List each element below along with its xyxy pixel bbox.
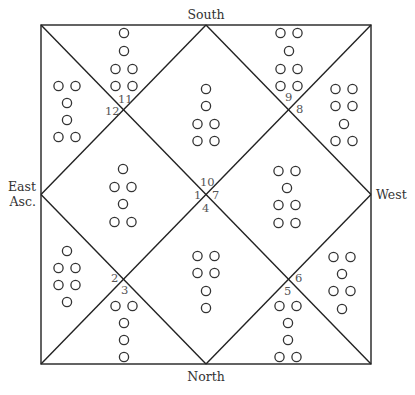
house-3-markers xyxy=(111,301,137,361)
circle-marker-icon xyxy=(291,166,300,175)
astrology-chart: South North West East Asc. 1234567891011… xyxy=(0,0,415,395)
circle-marker-icon xyxy=(201,303,210,312)
circle-marker-icon xyxy=(62,297,71,306)
circle-marker-icon xyxy=(128,64,137,73)
circle-marker-icon xyxy=(193,251,202,260)
circle-marker-icon xyxy=(119,352,128,361)
house-5-markers xyxy=(275,301,301,361)
circle-marker-icon xyxy=(331,84,340,93)
circle-marker-icon xyxy=(119,46,128,55)
circle-marker-icon xyxy=(119,318,128,327)
circle-marker-icon xyxy=(127,217,136,226)
circle-marker-icon xyxy=(274,218,283,227)
ascendant-label: Asc. xyxy=(9,194,36,209)
house-number-8: 8 xyxy=(296,102,303,116)
circle-marker-icon xyxy=(283,318,292,327)
circle-marker-icon xyxy=(193,268,202,277)
circle-marker-icon xyxy=(276,81,285,90)
circle-marker-icon xyxy=(291,218,300,227)
house-2-markers xyxy=(54,246,80,306)
circle-marker-icon xyxy=(331,136,340,145)
circle-marker-icon xyxy=(275,352,284,361)
circle-marker-icon xyxy=(210,268,219,277)
circle-marker-icon xyxy=(274,166,283,175)
circle-marker-icon xyxy=(210,251,219,260)
house-number-6: 6 xyxy=(295,271,302,285)
house-7-markers xyxy=(274,166,300,227)
circle-marker-icon xyxy=(291,200,300,209)
circle-marker-icon xyxy=(337,304,346,313)
circle-marker-icon xyxy=(293,28,302,37)
direction-label-west: West xyxy=(376,187,407,202)
house-number-5: 5 xyxy=(284,284,291,298)
circle-marker-icon xyxy=(62,98,71,107)
house-6-markers xyxy=(329,252,355,313)
circle-marker-icon xyxy=(274,200,283,209)
circle-marker-icon xyxy=(111,301,120,310)
circle-marker-icon xyxy=(210,136,219,145)
house-1-markers xyxy=(110,164,136,226)
circle-marker-icon xyxy=(337,269,346,278)
house-number-3: 3 xyxy=(121,283,128,297)
house-4-markers xyxy=(193,251,219,312)
circle-marker-icon xyxy=(293,64,302,73)
circle-marker-icon xyxy=(110,182,119,191)
circle-marker-icon xyxy=(54,132,63,141)
house-11-markers xyxy=(111,28,137,90)
circle-marker-icon xyxy=(293,81,302,90)
house-number-12: 12 xyxy=(105,104,120,118)
circle-marker-icon xyxy=(71,132,80,141)
circle-marker-icon xyxy=(128,301,137,310)
circle-marker-icon xyxy=(276,64,285,73)
circle-marker-icon xyxy=(284,46,293,55)
circle-marker-icon xyxy=(193,136,202,145)
circle-marker-icon xyxy=(71,280,80,289)
circle-marker-icon xyxy=(71,81,80,90)
circle-marker-icon xyxy=(339,119,348,128)
house-number-4: 4 xyxy=(202,201,209,215)
circle-marker-icon xyxy=(193,119,202,128)
circle-marker-icon xyxy=(348,84,357,93)
circle-marker-icon xyxy=(119,28,128,37)
circle-marker-icon xyxy=(54,280,63,289)
circle-marker-icon xyxy=(54,263,63,272)
circle-marker-icon xyxy=(275,301,284,310)
house-number-1: 1 xyxy=(194,188,201,202)
circle-marker-icon xyxy=(128,81,137,90)
circle-marker-icon xyxy=(329,286,338,295)
direction-label-east: East xyxy=(8,179,36,194)
house-8-markers xyxy=(331,84,357,145)
house-number-7: 7 xyxy=(212,188,219,202)
house-number-10: 10 xyxy=(200,175,215,189)
circle-marker-icon xyxy=(118,199,127,208)
house-number-2: 2 xyxy=(111,271,118,285)
circle-marker-icon xyxy=(276,28,285,37)
circle-marker-icon xyxy=(348,101,357,110)
house-number-11: 11 xyxy=(118,92,133,106)
circle-marker-icon xyxy=(346,252,355,261)
circle-marker-icon xyxy=(329,252,338,261)
circle-marker-icon xyxy=(348,136,357,145)
circle-marker-icon xyxy=(201,84,210,93)
circle-marker-icon xyxy=(118,164,127,173)
circle-marker-icon xyxy=(331,101,340,110)
circle-marker-icon xyxy=(111,64,120,73)
circle-marker-icon xyxy=(127,182,136,191)
circle-marker-icon xyxy=(110,217,119,226)
house-9-markers xyxy=(276,28,302,90)
circle-marker-icon xyxy=(292,352,301,361)
circle-marker-icon xyxy=(62,246,71,255)
circle-marker-icon xyxy=(283,335,292,344)
circle-marker-icon xyxy=(71,263,80,272)
circle-marker-icon xyxy=(346,286,355,295)
circle-marker-icon xyxy=(119,335,128,344)
circle-marker-icon xyxy=(54,81,63,90)
circle-marker-icon xyxy=(111,81,120,90)
circle-marker-icon xyxy=(292,301,301,310)
circle-marker-icon xyxy=(210,119,219,128)
circle-marker-icon xyxy=(282,183,291,192)
house-10-markers xyxy=(193,84,219,145)
direction-label-north: North xyxy=(187,369,225,384)
direction-label-south: South xyxy=(187,7,224,22)
circle-marker-icon xyxy=(62,115,71,124)
